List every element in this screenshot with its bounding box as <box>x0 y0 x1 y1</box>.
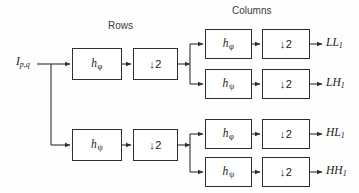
cols-hl-filter-base: h <box>223 127 229 139</box>
output-lh-base: LH <box>326 76 341 88</box>
cols-hh-filter-sub: ψ <box>229 169 235 179</box>
section-title-columns: Columns <box>232 5 271 16</box>
cols-ll-downsample-label: ↓2 <box>280 38 293 50</box>
rows-lowpass-downsample-box[interactable]: ↓2 <box>133 48 178 80</box>
cols-hh-filter-label: hψ <box>223 165 235 179</box>
input-label-subscript: p,q <box>20 60 30 69</box>
rows-highpass-downsample-label: ↓2 <box>149 139 162 151</box>
wavelet-decomposition-diagram: Rows Columns Ip,q hφ ↓2 hψ ↓2 hφ ↓2 LL1 … <box>0 0 359 193</box>
cols-hl-downsample-box[interactable]: ↓2 <box>262 119 310 149</box>
cols-ll-filter-sub: φ <box>229 41 234 51</box>
cols-lh-filter-box[interactable]: hψ <box>205 69 252 99</box>
rows-lowpass-filter-box[interactable]: hφ <box>72 48 122 80</box>
cols-hl-filter-sub: φ <box>229 131 234 141</box>
cols-lh-downsample-label: ↓2 <box>280 78 293 90</box>
rows-lowpass-filter-sub: φ <box>98 61 103 71</box>
cols-lh-filter-sub: ψ <box>229 81 235 91</box>
rows-lowpass-filter-base: h <box>91 57 97 69</box>
output-label-hl: HL1 <box>326 126 345 140</box>
output-hl-sub: 1 <box>341 131 345 140</box>
cols-ll-filter-base: h <box>223 37 229 49</box>
rows-lowpass-filter-label: hφ <box>91 57 102 71</box>
cols-ll-downsample-box[interactable]: ↓2 <box>262 29 310 59</box>
output-hl-base: HL <box>326 126 341 138</box>
output-ll-sub: 1 <box>339 41 343 50</box>
output-label-lh: LH1 <box>326 76 345 90</box>
rows-highpass-filter-label: hψ <box>91 138 103 152</box>
input-label: Ip,q <box>16 55 30 69</box>
rows-highpass-filter-sub: ψ <box>97 142 103 152</box>
cols-lh-filter-base: h <box>223 77 229 89</box>
rows-highpass-filter-box[interactable]: hψ <box>72 129 122 161</box>
cols-hh-downsample-box[interactable]: ↓2 <box>262 157 310 187</box>
cols-lh-filter-label: hψ <box>223 77 235 91</box>
cols-hh-filter-box[interactable]: hψ <box>205 157 252 187</box>
section-title-rows: Rows <box>108 20 133 31</box>
output-ll-base: LL <box>326 36 339 48</box>
output-label-hh: HH1 <box>326 164 347 178</box>
output-lh-sub: 1 <box>341 81 345 90</box>
cols-hh-filter-base: h <box>223 165 229 177</box>
cols-hh-downsample-label: ↓2 <box>280 166 293 178</box>
cols-lh-downsample-box[interactable]: ↓2 <box>262 69 310 99</box>
output-label-ll: LL1 <box>326 36 343 50</box>
cols-hl-filter-box[interactable]: hφ <box>205 119 252 149</box>
output-hh-base: HH <box>326 164 343 176</box>
cols-ll-filter-box[interactable]: hφ <box>205 29 252 59</box>
rows-lowpass-downsample-label: ↓2 <box>149 58 162 70</box>
cols-ll-filter-label: hφ <box>223 37 234 51</box>
cols-hl-downsample-label: ↓2 <box>280 128 293 140</box>
output-hh-sub: 1 <box>343 169 347 178</box>
cols-hl-filter-label: hφ <box>223 127 234 141</box>
rows-highpass-downsample-box[interactable]: ↓2 <box>133 129 178 161</box>
